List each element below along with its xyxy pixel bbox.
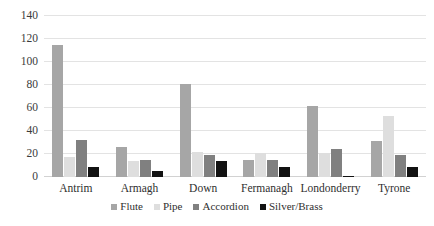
- bar[interactable]: [331, 149, 342, 177]
- y-axis-tick-label: 20: [27, 148, 39, 160]
- bar[interactable]: [152, 171, 163, 177]
- bar[interactable]: [216, 161, 227, 177]
- bar[interactable]: [76, 140, 87, 177]
- bar[interactable]: [180, 84, 191, 177]
- x-axis-category-label: Down: [171, 179, 235, 197]
- legend-swatch-icon: [111, 204, 117, 210]
- bar-chart: 020406080100120140 AntrimArmaghDownFerma…: [0, 0, 434, 226]
- legend-item[interactable]: Accordion: [193, 201, 248, 212]
- bar-groups: [44, 16, 426, 177]
- bar[interactable]: [140, 160, 151, 177]
- y-axis-tick-label: 140: [21, 10, 38, 22]
- bar[interactable]: [255, 153, 266, 177]
- legend-label: Accordion: [202, 201, 248, 212]
- x-axis-category-label: Fermanagh: [235, 179, 299, 197]
- y-axis-tick-label: 80: [27, 79, 39, 91]
- bar[interactable]: [371, 141, 382, 177]
- bar[interactable]: [64, 157, 75, 177]
- y-axis-tick-label: 40: [27, 125, 39, 137]
- x-axis-category-label: Tyrone: [362, 179, 426, 197]
- bar[interactable]: [383, 116, 394, 177]
- legend-label: Silver/Brass: [269, 201, 323, 212]
- bar[interactable]: [243, 160, 254, 177]
- legend-swatch-icon: [154, 204, 160, 210]
- x-axis-category-label: Antrim: [44, 179, 108, 197]
- x-axis-category-label: Armagh: [108, 179, 172, 197]
- bar-group: [44, 16, 108, 177]
- bar-group: [108, 16, 172, 177]
- x-axis-category-label: Londonderry: [299, 179, 363, 197]
- y-axis: 020406080100120140: [0, 16, 38, 177]
- bar[interactable]: [267, 160, 278, 177]
- bar[interactable]: [52, 45, 63, 177]
- y-axis-tick-label: 120: [21, 33, 38, 45]
- bar[interactable]: [343, 176, 354, 177]
- legend-label: Pipe: [163, 201, 183, 212]
- bar-group: [235, 16, 299, 177]
- legend-item[interactable]: Flute: [111, 201, 143, 212]
- legend-swatch-icon: [193, 204, 199, 210]
- bar-group: [362, 16, 426, 177]
- bar[interactable]: [307, 106, 318, 177]
- bar[interactable]: [319, 153, 330, 177]
- bar[interactable]: [395, 155, 406, 177]
- plot-area: [44, 16, 426, 177]
- legend-label: Flute: [120, 201, 143, 212]
- y-axis-tick-label: 0: [32, 171, 38, 183]
- bar-group: [171, 16, 235, 177]
- y-axis-tick-label: 100: [21, 56, 38, 68]
- bar-group: [299, 16, 363, 177]
- x-axis: AntrimArmaghDownFermanaghLondonderryTyro…: [44, 179, 426, 197]
- bar[interactable]: [128, 161, 139, 177]
- legend-swatch-icon: [260, 204, 266, 210]
- bar[interactable]: [407, 167, 418, 177]
- bar[interactable]: [116, 147, 127, 177]
- y-axis-tick-label: 60: [27, 102, 39, 114]
- bar[interactable]: [192, 152, 203, 177]
- legend-item[interactable]: Pipe: [154, 201, 183, 212]
- legend: FlutePipeAccordionSilver/Brass: [0, 201, 434, 212]
- legend-item[interactable]: Silver/Brass: [260, 201, 323, 212]
- bar[interactable]: [88, 167, 99, 177]
- bar[interactable]: [204, 155, 215, 177]
- bar[interactable]: [279, 167, 290, 177]
